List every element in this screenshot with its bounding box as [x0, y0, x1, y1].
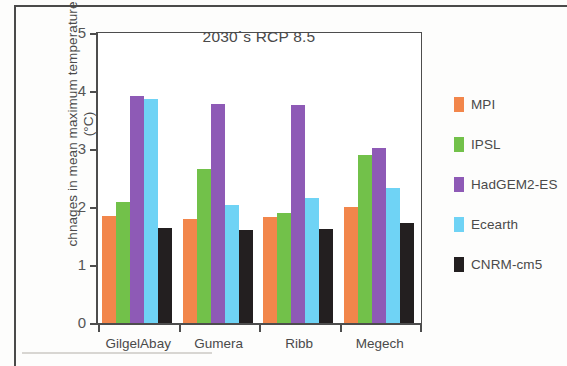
chart-legend: MPIIPSLHadGEM2-ESEcearthCNRM-cm5 [454, 84, 567, 284]
bar-group-bars [102, 33, 172, 323]
x-axis-tick [179, 323, 181, 332]
bar [225, 205, 239, 323]
x-axis-tick [420, 323, 422, 332]
y-axis-tick [90, 33, 98, 35]
bar [183, 219, 197, 323]
legend-item: CNRM-cm5 [454, 244, 567, 284]
bar [239, 230, 253, 323]
bar [358, 155, 372, 323]
plot-bars-container [98, 33, 420, 323]
bar [277, 213, 291, 323]
legend-item: HadGEM2-ES [454, 164, 567, 204]
legend-label: HadGEM2-ES [471, 177, 558, 192]
bar [263, 217, 277, 323]
bar [305, 198, 319, 323]
bar-group [263, 33, 333, 323]
bar-group-bars [183, 33, 253, 323]
bar [116, 202, 130, 323]
legend-label: IPSL [471, 137, 501, 152]
y-axis-tick [90, 207, 98, 209]
x-axis-tick [340, 323, 342, 332]
bar [130, 96, 144, 323]
bar-group [183, 33, 253, 323]
bar-group [344, 33, 414, 323]
y-axis-tick-label: 1 [66, 257, 86, 272]
bar [386, 188, 400, 323]
legend-label: CNRM-cm5 [471, 257, 542, 272]
y-axis-tick-label: 5 [66, 25, 86, 40]
legend-item: MPI [454, 84, 567, 124]
x-axis-tick-label: Ribb [285, 336, 313, 351]
bar [197, 169, 211, 323]
y-axis-tick [90, 149, 98, 151]
y-axis-tick-label: 4 [66, 83, 86, 98]
y-axis-tick-label: 0 [66, 315, 86, 330]
x-axis-tick-label: GilgelAbay [106, 336, 171, 351]
legend-color-swatch [454, 97, 464, 112]
scanned-figure-page: 2030`s RCP 8.5 chnages in mean maximum t… [0, 0, 567, 366]
y-axis-tick [90, 91, 98, 93]
legend-color-swatch [454, 257, 464, 272]
y-axis-tick-label: 2 [66, 199, 86, 214]
y-axis-tick-label: 3 [66, 141, 86, 156]
legend-color-swatch [454, 177, 464, 192]
legend-color-swatch [454, 137, 464, 152]
bar [158, 228, 172, 323]
legend-color-swatch [454, 217, 464, 232]
y-axis-tick [90, 265, 98, 267]
legend-label: MPI [471, 97, 495, 112]
bar [144, 99, 158, 323]
page-scan-artifact [22, 352, 212, 354]
x-axis-tick [98, 323, 100, 332]
bar-group-bars [263, 33, 333, 323]
bar-chart: 2030`s RCP 8.5 chnages in mean maximum t… [22, 12, 559, 352]
bar [319, 229, 333, 323]
bar [400, 223, 414, 323]
bar [372, 148, 386, 323]
bar-group-bars [344, 33, 414, 323]
bar [344, 207, 358, 323]
bar [211, 104, 225, 323]
bar [102, 216, 116, 323]
legend-item: Ecearth [454, 204, 567, 244]
x-axis-tick-label: Gumera [194, 336, 243, 351]
x-axis-tick [259, 323, 261, 332]
legend-item: IPSL [454, 124, 567, 164]
bar [291, 105, 305, 323]
x-axis-tick-label: Megech [356, 336, 404, 351]
page-border-left [14, 5, 16, 366]
bar-group [102, 33, 172, 323]
legend-label: Ecearth [471, 217, 518, 232]
